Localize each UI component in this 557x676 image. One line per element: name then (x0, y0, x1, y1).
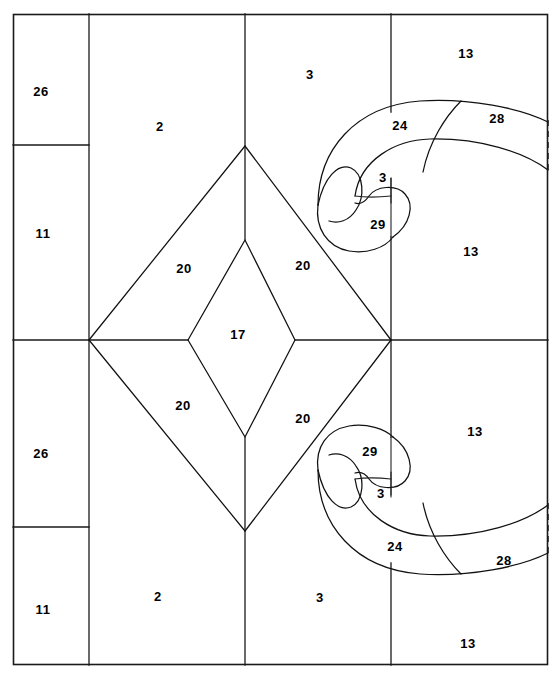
technical-diagram: 2621131324283291320201720202611232932428… (0, 0, 557, 676)
label-3-bottom: 3 (316, 590, 324, 605)
label-13-right-upper: 13 (463, 244, 479, 259)
label-13-bottomright: 13 (460, 636, 476, 651)
label-20-upper-right: 20 (295, 258, 311, 273)
label-3-curl-top: 3 (379, 170, 387, 185)
label-3-top: 3 (306, 67, 314, 82)
label-24-top: 24 (392, 118, 408, 133)
label-29-bottom: 29 (362, 444, 378, 459)
label-2-bottom: 2 (154, 589, 162, 604)
label-13-right-lower: 13 (467, 424, 483, 439)
label-24-bottom: 24 (387, 539, 403, 554)
label-17-center: 17 (230, 327, 246, 342)
label-26-bottom: 26 (33, 446, 49, 461)
label-29-top: 29 (370, 217, 386, 232)
label-28-bottom: 28 (496, 553, 512, 568)
label-26-top: 26 (33, 84, 49, 99)
label-13-topright: 13 (458, 46, 474, 61)
label-2-top: 2 (156, 119, 164, 134)
label-28-top: 28 (489, 111, 505, 126)
label-3-curl-bottom: 3 (377, 486, 385, 501)
label-11-bottom: 11 (36, 602, 51, 617)
label-20-upper-left: 20 (176, 261, 192, 276)
label-20-lower-right: 20 (295, 411, 311, 426)
label-11-top: 11 (36, 226, 51, 241)
label-20-lower-left: 20 (175, 398, 191, 413)
diagram-background (0, 0, 557, 676)
